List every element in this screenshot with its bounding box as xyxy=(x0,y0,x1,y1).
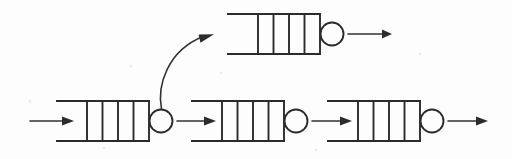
arrow-1-to-2 xyxy=(177,117,216,126)
diagram-canvas xyxy=(0,0,512,159)
server-1 xyxy=(150,110,173,133)
server-top xyxy=(321,23,344,46)
arrow-branch-up xyxy=(160,34,214,109)
station-top xyxy=(228,14,392,54)
arrow-3-out xyxy=(448,117,488,126)
server-3 xyxy=(421,110,444,133)
station-1 xyxy=(57,101,216,141)
arrow-top-out xyxy=(348,30,392,39)
server-2 xyxy=(285,110,308,133)
arrow-external-in xyxy=(30,117,74,126)
queueing-network-diagram xyxy=(0,0,512,159)
arrow-2-to-3 xyxy=(312,117,352,126)
queue-top xyxy=(228,14,320,54)
